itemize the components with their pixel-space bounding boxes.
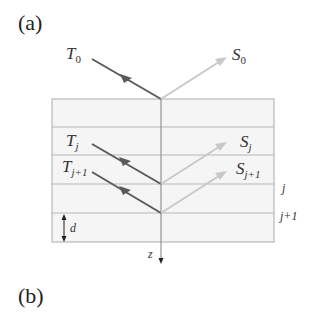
reflected-ray-S0 <box>161 60 222 99</box>
multilayer-diagram: z d T0 S0 Tj Sj Tj+1 Sj+1 j j+1 <box>0 0 318 325</box>
label-T0: T0 <box>66 44 81 65</box>
label-S0: S0 <box>232 45 247 66</box>
label-layer-j: j <box>280 181 286 195</box>
thickness-label: d <box>70 221 77 235</box>
z-axis-label: z <box>147 247 153 261</box>
label-layer-j1: j+1 <box>278 209 297 223</box>
